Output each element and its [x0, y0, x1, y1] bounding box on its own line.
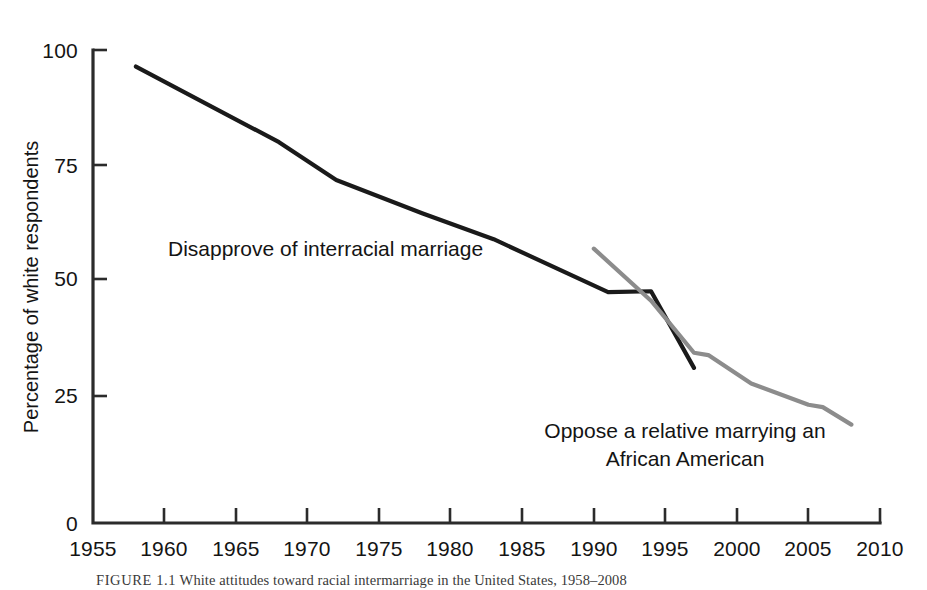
x-tick-label-2000: 2000	[713, 537, 761, 560]
x-tick-label-1955: 1955	[69, 537, 117, 560]
x-tick-label-1990: 1990	[570, 537, 618, 560]
series-line-disapprove	[136, 67, 694, 368]
y-tick-label-50: 50	[54, 267, 78, 290]
x-tick-label-1980: 1980	[426, 537, 474, 560]
x-tick-label-1975: 1975	[355, 537, 403, 560]
y-tick-label-25: 25	[54, 384, 78, 407]
x-tick-label-1995: 1995	[641, 537, 689, 560]
figure-caption-text: White attitudes toward racial intermarri…	[180, 572, 627, 588]
x-tick-label-2010: 2010	[856, 537, 904, 560]
figure-caption-label: FIGURE 1.1	[96, 572, 176, 588]
x-tick-label-1960: 1960	[140, 537, 188, 560]
y-axis-title: Percentage of white respondents	[20, 141, 42, 433]
x-tick-label-1970: 1970	[283, 537, 331, 560]
series-line-oppose	[594, 249, 852, 425]
y-tick-label-100: 100	[42, 39, 78, 62]
y-tick-label-0: 0	[66, 512, 78, 535]
x-tick-label-1965: 1965	[212, 537, 260, 560]
annotation-oppose-line2: African American	[606, 447, 765, 470]
annotation-disapprove: Disapprove of interracial marriage	[168, 237, 483, 260]
figure-caption: FIGURE 1.1 White attitudes toward racial…	[0, 572, 927, 590]
line-chart: Percentage of white respondents 100 75 5…	[0, 0, 927, 590]
y-tick-label-75: 75	[54, 154, 78, 177]
annotation-oppose-line1: Oppose a relative marrying an	[544, 419, 825, 442]
figure-container: Percentage of white respondents 100 75 5…	[0, 0, 927, 590]
x-tick-label-2005: 2005	[784, 537, 832, 560]
x-tick-label-1985: 1985	[498, 537, 546, 560]
